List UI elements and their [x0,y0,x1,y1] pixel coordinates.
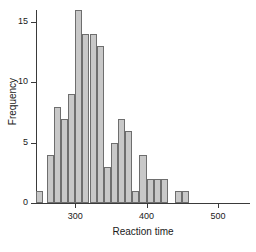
histogram-bar [90,34,97,203]
y-axis-tick [31,22,36,23]
histogram-bar [36,191,43,203]
histogram-bar [68,94,75,203]
histogram-bar [161,179,168,203]
y-axis-tick-label: 0 [8,198,28,207]
x-axis-tick-label: 400 [132,211,162,221]
y-axis-tick [31,143,36,144]
histogram-bar [47,155,54,203]
histogram-bar [75,10,82,203]
histogram-bar [97,46,104,203]
histogram-bar [104,167,111,203]
y-axis-tick [31,203,36,204]
x-axis-tick-label: 300 [60,211,90,221]
histogram-bars [36,10,250,203]
histogram-bar [147,179,154,203]
x-axis-title: Reaction time [36,226,250,237]
y-axis-title: Frequency [7,62,18,142]
x-axis-tick [75,204,76,208]
histogram-bar [154,179,161,203]
x-axis-tick [147,204,148,208]
histogram-bar [139,155,146,203]
histogram-bar [175,191,182,203]
histogram-chart: 051015 300400500 Frequency Reaction time [0,0,256,252]
histogram-bar [182,191,189,203]
y-axis-tick-label: 15 [8,17,28,26]
histogram-bar [118,119,125,203]
x-axis-tick-label: 500 [203,211,233,221]
histogram-bar [125,131,132,203]
y-axis-tick [31,82,36,83]
x-axis-tick [218,204,219,208]
histogram-bar [54,107,61,204]
histogram-bar [82,34,89,203]
histogram-bar [132,191,139,203]
histogram-bar [111,143,118,203]
histogram-bar [61,119,68,203]
